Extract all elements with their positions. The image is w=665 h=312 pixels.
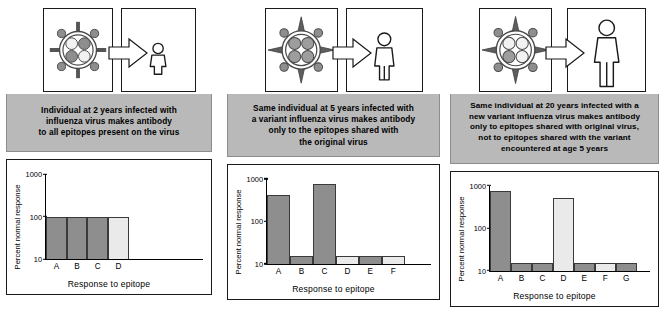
- x-tick-B: B: [511, 274, 532, 283]
- panel-2-x-axis-label: Response to epitope: [228, 284, 439, 294]
- panel-3: Same individual at 20 years infected wit…: [450, 6, 659, 306]
- panel-2-virus-box: [265, 8, 337, 92]
- caption-line: the original virus: [234, 137, 433, 148]
- x-tick-C: C: [532, 274, 553, 283]
- panel-2-y-axis-label: Percent normal response: [234, 184, 243, 280]
- right-arrow-icon: [105, 36, 151, 70]
- panel-3-x-tick-labels: A B C D E F G: [490, 274, 637, 283]
- panel-2-caption: Same individual at 5 years infected with…: [227, 94, 440, 157]
- bar-A: [490, 191, 511, 271]
- panel-1-x-tick-labels: A B C D: [46, 262, 129, 271]
- panel-3-chart: Percent normal response 1000 100 10 A: [450, 171, 659, 307]
- panel-1-x-axis-label: Response to epitope: [7, 279, 211, 289]
- y-tick-100: 100: [251, 217, 263, 226]
- panel-2-illustration: [227, 6, 440, 94]
- bar-B: [67, 217, 88, 260]
- caption-line: a variant influenza virus makes antibody: [234, 114, 433, 125]
- panel-2-x-tick-labels: A B C D E F: [267, 267, 405, 276]
- y-tick-10: 10: [478, 266, 486, 275]
- x-tick-E: E: [359, 267, 382, 276]
- y-tick-1000: 1000: [26, 170, 42, 179]
- caption-line: Same individual at 20 years infected wit…: [457, 101, 652, 112]
- panel-1-y-axis-label: Percent normal response: [13, 179, 22, 275]
- panel-3-caption: Same individual at 20 years infected wit…: [450, 94, 659, 164]
- bar-C: [313, 184, 336, 264]
- caption-line: new variant influenza virus makes antibo…: [457, 112, 652, 123]
- panel-3-bars: [490, 186, 650, 271]
- x-tick-D: D: [108, 262, 129, 271]
- panel-3-x-axis-label: Response to epitope: [451, 291, 658, 301]
- bar-F: [382, 256, 405, 264]
- panel-2: Same individual at 5 years infected with…: [227, 6, 440, 306]
- caption-line: encountered at age 5 years: [457, 144, 652, 155]
- caption-line: only to the epitopes shared with: [234, 125, 433, 136]
- bar-D: [336, 256, 359, 264]
- panel-1-virus-box: [43, 8, 113, 92]
- panel-1-bars: [46, 174, 203, 259]
- influenza-variant-virus-star-spikes-icon: [266, 9, 336, 91]
- bar-A: [267, 195, 290, 264]
- y-tick-1000: 1000: [247, 174, 263, 183]
- x-tick-C: C: [87, 262, 108, 271]
- panel-2-chart: Percent normal response 1000 100 10 A B: [227, 164, 440, 300]
- y-tick-100: 100: [474, 224, 486, 233]
- bar-D: [553, 198, 574, 270]
- panel-1: Individual at 2 years infected with infl…: [6, 6, 212, 306]
- panel-2-bars: [267, 179, 431, 264]
- x-tick-B: B: [67, 262, 88, 271]
- panel-1-caption: Individual at 2 years infected with infl…: [6, 94, 212, 152]
- panel-1-plot-area: 1000 100 10 A B C D: [45, 174, 203, 260]
- panel-1-arrow: [105, 36, 151, 70]
- panel-3-plot-area: 1000 100 10 A B C D: [489, 186, 650, 272]
- panel-3-y-axis-label: Percent normal response: [457, 191, 466, 287]
- x-tick-C: C: [313, 267, 336, 276]
- panel-1-illustration: [6, 6, 212, 94]
- caption-line: to all epitopes present on the virus: [13, 127, 205, 138]
- bar-F: [595, 263, 616, 271]
- influenza-new-variant-virus-star-spikes-icon: [480, 9, 551, 91]
- y-tick-10: 10: [255, 259, 263, 268]
- y-tick-1000: 1000: [470, 181, 486, 190]
- y-tick-10: 10: [34, 255, 42, 264]
- x-tick-B: B: [290, 267, 313, 276]
- x-tick-D: D: [336, 267, 359, 276]
- bar-C: [532, 263, 553, 271]
- panel-1-chart: Percent normal response 1000 100 10 A B …: [6, 159, 212, 295]
- panel-2-plot-area: 1000 100 10 A B C D E: [266, 179, 431, 265]
- caption-line: influenza virus makes antibody: [13, 116, 205, 127]
- panel-3-illustration: [450, 6, 659, 94]
- panel-3-arrow: [542, 36, 588, 70]
- x-tick-D: D: [553, 274, 574, 283]
- caption-line: Individual at 2 years infected with: [13, 105, 205, 116]
- x-tick-G: G: [616, 274, 637, 283]
- x-tick-A: A: [490, 274, 511, 283]
- bar-D: [108, 217, 129, 260]
- x-tick-F: F: [595, 274, 616, 283]
- bar-G: [616, 263, 637, 271]
- right-arrow-icon: [542, 36, 588, 70]
- influenza-virus-bar-spikes-icon: [44, 9, 112, 91]
- y-tick-100: 100: [30, 212, 42, 221]
- x-tick-E: E: [574, 274, 595, 283]
- bar-B: [290, 256, 313, 264]
- caption-line: Same individual at 5 years infected with: [234, 103, 433, 114]
- right-arrow-icon: [329, 36, 375, 70]
- bar-A: [46, 217, 67, 260]
- bar-E: [359, 256, 382, 264]
- caption-line: only to epitopes shared with original vi…: [457, 122, 652, 133]
- bar-E: [574, 263, 595, 271]
- caption-line: not to epitopes shared with the variant: [457, 133, 652, 144]
- x-tick-A: A: [46, 262, 67, 271]
- bar-B: [511, 263, 532, 271]
- bar-C: [87, 217, 108, 260]
- x-tick-F: F: [382, 267, 405, 276]
- x-tick-A: A: [267, 267, 290, 276]
- figure-root: Individual at 2 years infected with infl…: [0, 0, 665, 312]
- panel-2-arrow: [329, 36, 375, 70]
